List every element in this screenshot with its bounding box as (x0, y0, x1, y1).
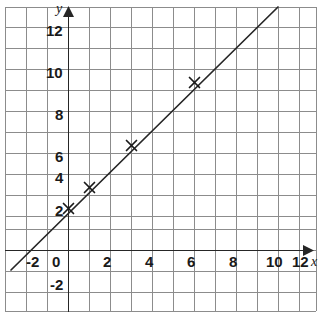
y-tick-label-12: 12 (46, 23, 63, 38)
x-axis-label: x (311, 255, 317, 269)
x-tick-label-6: 6 (187, 254, 195, 269)
x-tick-label-neg2: -2 (26, 254, 39, 269)
y-tick-label-neg2: -2 (50, 277, 63, 292)
x-tick-label-12: 12 (292, 254, 309, 269)
y-tick-label-6: 6 (55, 149, 63, 164)
x-tick-label-4: 4 (145, 254, 153, 269)
y-tick-label-10: 10 (46, 65, 63, 80)
y-tick-label-8: 8 (55, 107, 63, 122)
x-tick-label-10: 10 (266, 254, 283, 269)
x-tick-label-8: 8 (229, 254, 237, 269)
y-tick-label-4: 4 (55, 170, 63, 185)
y-axis-label: y (56, 2, 62, 16)
graph-figure: 12 10 8 6 4 2 -2 -2 0 2 4 6 8 10 12 y x (0, 0, 323, 312)
y-tick-label-2: 2 (55, 203, 63, 218)
x-tick-label-2: 2 (103, 254, 111, 269)
x-tick-label-0: 0 (52, 254, 60, 269)
